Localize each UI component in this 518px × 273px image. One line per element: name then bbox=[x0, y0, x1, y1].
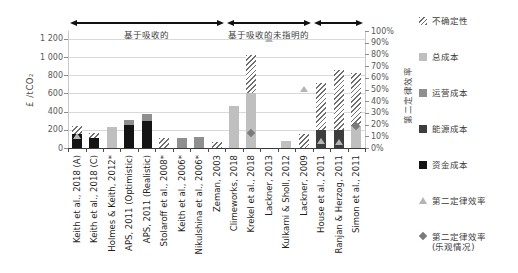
right-tick-label: 50% bbox=[371, 85, 401, 94]
second-law-efficiency-marker bbox=[335, 139, 343, 145]
legend-item-energy-cost: 能源成本 bbox=[419, 124, 486, 134]
right-tick-label: 100% bbox=[371, 27, 401, 36]
bar-segment-operating bbox=[142, 114, 152, 121]
right-tick-label: 20% bbox=[371, 120, 401, 129]
left-tick bbox=[64, 130, 68, 131]
category-label: APS, 2011 (Optimistic) bbox=[123, 155, 135, 265]
category-label: Keith et al., 2018 (A) bbox=[71, 155, 83, 265]
category-tick bbox=[260, 148, 261, 152]
legend-item-total-cost: 总成本 bbox=[419, 52, 486, 62]
category-label: Lackner, 2013 bbox=[263, 155, 275, 265]
diamond-marker-icon bbox=[419, 232, 427, 240]
arrow-left-icon bbox=[314, 20, 321, 26]
bar-segment-total bbox=[107, 127, 117, 148]
bar-segment-total bbox=[281, 141, 291, 148]
arrow-right-icon bbox=[304, 20, 311, 26]
arrow-left-icon bbox=[70, 20, 77, 26]
left-tick-label: 0 bbox=[19, 144, 63, 153]
category-tick bbox=[120, 148, 121, 152]
total-cost-swatch-icon bbox=[419, 53, 427, 61]
group-arrow-line bbox=[320, 22, 357, 24]
category-label: Kulkarni & Sholl, 2012 bbox=[280, 155, 292, 265]
group-arrow-line bbox=[233, 22, 305, 24]
right-tick bbox=[365, 78, 369, 79]
left-tick-label: 200 bbox=[19, 125, 63, 134]
second-law-efficiency-marker bbox=[300, 86, 308, 92]
energy-cost-swatch-icon bbox=[419, 125, 427, 133]
right-tick bbox=[365, 90, 369, 91]
right-axis-title: 第二定律效率 bbox=[402, 54, 414, 136]
category-label: Krekel et al., 2018 bbox=[245, 155, 257, 265]
bar-segment-operating bbox=[124, 120, 134, 126]
legend-item-second-law-efficiency-optimistic: 第二定律效率 (乐观情况) bbox=[419, 232, 486, 252]
bar-segment-uncertainty bbox=[212, 142, 222, 148]
legend-label: 第二定律效率 bbox=[432, 196, 486, 206]
right-tick-label: 70% bbox=[371, 62, 401, 71]
bar-segment-uncertainty bbox=[246, 55, 256, 93]
left-tick bbox=[64, 93, 68, 94]
bar-segment-capital bbox=[124, 125, 134, 148]
bar-segment-uncertainty bbox=[351, 73, 361, 127]
legend: 不确定性 总成本 运营成本 能源成本 资金成本 第二定律效率 第二定律效率 (乐… bbox=[419, 16, 486, 252]
right-tick-label: 40% bbox=[371, 97, 401, 106]
legend-item-capital-cost: 资金成本 bbox=[419, 160, 486, 170]
category-label: House et al., 2011 bbox=[315, 155, 327, 265]
right-tick-label: 10% bbox=[371, 132, 401, 141]
group-arrow-line bbox=[76, 22, 218, 24]
category-tick bbox=[86, 148, 87, 152]
triangle-marker-icon bbox=[419, 197, 427, 204]
legend-label: 运营成本 bbox=[432, 88, 468, 98]
second-law-efficiency-marker bbox=[265, 36, 273, 42]
right-tick-label: 30% bbox=[371, 108, 401, 117]
gridline-800 bbox=[68, 75, 365, 76]
bar-segment-capital bbox=[142, 121, 152, 148]
category-tick bbox=[225, 148, 226, 152]
left-tick bbox=[64, 75, 68, 76]
category-tick bbox=[190, 148, 191, 152]
second-law-efficiency-marker bbox=[317, 138, 325, 144]
category-tick bbox=[365, 148, 366, 152]
bar-segment-total bbox=[229, 106, 239, 148]
category-tick bbox=[243, 148, 244, 152]
bar-segment-uncertainty bbox=[159, 138, 169, 148]
left-tick bbox=[64, 112, 68, 113]
category-tick bbox=[278, 148, 279, 152]
category-tick bbox=[348, 148, 349, 152]
category-label: Keith et al., 2006* bbox=[176, 155, 188, 265]
right-tick bbox=[365, 54, 369, 55]
legend-item-second-law-efficiency: 第二定律效率 bbox=[419, 196, 486, 206]
bar-segment-operating bbox=[177, 138, 187, 148]
category-label: Holmes & Keith, 2012* bbox=[106, 155, 118, 265]
category-label: Lackner, 2009 bbox=[298, 155, 310, 265]
category-tick bbox=[68, 148, 69, 152]
second-law-efficiency-marker bbox=[73, 133, 81, 139]
right-tick-label: 90% bbox=[371, 38, 401, 47]
arrow-right-icon bbox=[217, 20, 224, 26]
bar-segment-uncertainty bbox=[299, 134, 309, 148]
bar-segment-total bbox=[246, 93, 256, 148]
category-label: APS, 2011 (Realistic) bbox=[141, 155, 153, 265]
category-tick bbox=[103, 148, 104, 152]
legend-item-uncertainty: 不确定性 bbox=[419, 16, 486, 26]
arrow-left-icon bbox=[227, 20, 234, 26]
legend-label: 能源成本 bbox=[432, 124, 468, 134]
category-label: Zeman, 2003 bbox=[211, 155, 223, 265]
category-tick bbox=[313, 148, 314, 152]
legend-label-two-lines: 第二定律效率 (乐观情况) bbox=[432, 232, 486, 252]
right-tick-label: 80% bbox=[371, 50, 401, 59]
category-label: Nikulshina et al., 2006* bbox=[193, 155, 205, 265]
right-tick bbox=[365, 113, 369, 114]
category-tick bbox=[138, 148, 139, 152]
gridline-1000 bbox=[68, 57, 365, 58]
category-label: Keith et al., 2018 (C) bbox=[88, 155, 100, 265]
left-tick-label: 1 200 bbox=[19, 34, 63, 43]
left-axis-title: £ /tCO₂ bbox=[24, 55, 36, 125]
category-label: Ranjan & Herzog, 2011 bbox=[333, 155, 345, 265]
bar-segment-uncertainty bbox=[334, 70, 344, 130]
category-tick bbox=[295, 148, 296, 152]
x-axis-line bbox=[68, 148, 365, 149]
dac-cost-comparison-chart: 1 2001 0008006004002000100%90%80%70%60%5… bbox=[0, 0, 518, 273]
category-tick bbox=[330, 148, 331, 152]
right-tick bbox=[365, 66, 369, 67]
legend-label: 第二定律效率 bbox=[432, 232, 486, 242]
